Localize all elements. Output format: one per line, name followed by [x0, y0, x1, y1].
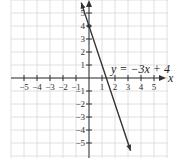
y-tick-label: −1	[75, 86, 85, 96]
x-tick-label: 4	[139, 82, 144, 92]
x-tick-label: −2	[58, 82, 68, 92]
y-tick-label: −3	[75, 112, 85, 122]
line-arrow-down-icon	[126, 144, 131, 150]
y-axis-arrow-icon	[86, 0, 92, 7]
equation-label: y = −3x + 4	[110, 62, 170, 76]
x-tick-label: 3	[126, 82, 131, 92]
x-tick-label: 5	[152, 82, 157, 92]
y-intercept-point	[87, 24, 91, 28]
y-tick-label: 4	[81, 21, 86, 31]
plotted-line	[81, 3, 131, 151]
y-tick-label: 3	[81, 34, 86, 44]
y-tick-label: −5	[75, 138, 85, 148]
y-tick-label: 1	[81, 60, 86, 70]
x-tick-label: 1	[100, 82, 105, 92]
x-tick-label: −5	[19, 82, 29, 92]
y-tick-label: 2	[81, 47, 86, 57]
x-tick-label: −3	[45, 82, 55, 92]
x-tick-label: −4	[32, 82, 42, 92]
x-tick-label: 2	[113, 82, 118, 92]
line-graph: −5−4−3−2−112345 −5−4−3−2−112345 y = −3x …	[0, 0, 178, 166]
y-tick-label: −4	[75, 125, 85, 135]
x-axis-label: x	[167, 71, 174, 85]
y-tick-label: −2	[75, 99, 85, 109]
